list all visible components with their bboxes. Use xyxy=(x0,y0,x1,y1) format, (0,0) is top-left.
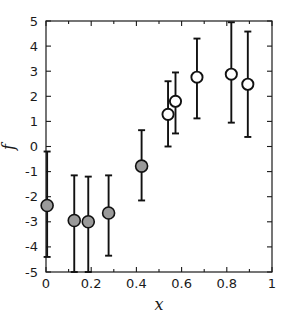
data-point-4 xyxy=(103,207,115,219)
data-point-8 xyxy=(191,72,202,83)
y-tick-label: 2 xyxy=(30,89,38,104)
y-tick-label: -1 xyxy=(25,164,38,179)
data-point-10 xyxy=(242,79,253,90)
data-point-1 xyxy=(41,199,53,211)
errorbar-group xyxy=(44,22,252,272)
x-tick-label: 0.8 xyxy=(216,276,237,291)
data-point-7 xyxy=(170,96,181,107)
x-tick-label: 0 xyxy=(42,276,50,291)
data-point-2 xyxy=(68,215,80,227)
y-tick-label: 3 xyxy=(30,64,38,79)
y-axis-ticks xyxy=(46,21,272,272)
y-tick-label: 4 xyxy=(30,39,38,54)
y-tick-label: 1 xyxy=(30,114,38,129)
x-tick-label: 0.6 xyxy=(171,276,192,291)
x-tick-label: 1 xyxy=(268,276,276,291)
scatter-plot-with-errorbars: 00.20.40.60.81 -5-4-3-2-1012345 x f xyxy=(0,0,295,318)
axes-frame xyxy=(46,21,272,272)
x-tick-label: 0.2 xyxy=(81,276,102,291)
data-point-9 xyxy=(226,69,237,80)
y-axis-tick-labels: -5-4-3-2-1012345 xyxy=(25,14,38,280)
y-tick-label: 0 xyxy=(30,139,38,154)
x-axis-tick-labels: 00.20.40.60.81 xyxy=(42,276,276,291)
data-point-6 xyxy=(162,109,173,120)
y-tick-label: -2 xyxy=(25,189,38,204)
y-tick-label: -3 xyxy=(25,214,38,229)
x-axis-ticks xyxy=(46,21,272,272)
data-point-markers xyxy=(41,69,253,228)
y-axis-label: f xyxy=(0,141,18,151)
data-point-3 xyxy=(82,216,94,228)
y-tick-label: 5 xyxy=(30,14,38,29)
data-point-5 xyxy=(136,160,148,172)
figure-container: 00.20.40.60.81 -5-4-3-2-1012345 x f xyxy=(0,0,295,318)
x-axis-label: x xyxy=(154,295,163,314)
y-tick-label: -4 xyxy=(25,239,38,254)
x-tick-label: 0.4 xyxy=(126,276,147,291)
y-tick-label: -5 xyxy=(25,265,38,280)
